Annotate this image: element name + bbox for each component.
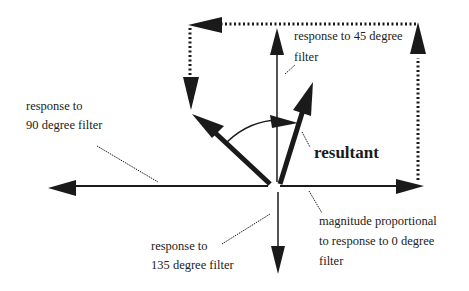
label-45-line1: response to 45 degree: [294, 27, 403, 45]
leader-135: [222, 214, 270, 244]
arrow-up-icon: [270, 28, 284, 55]
arc-arrow-icon: [270, 115, 298, 128]
label-45-line2: filter: [294, 48, 318, 66]
vector-90-line: [210, 128, 270, 184]
arrow-left-icon: [48, 180, 76, 196]
dotted-arrow-left-icon: [188, 17, 222, 33]
dotted-arrow-up-icon: [410, 22, 426, 54]
label-135-line1: response to: [151, 237, 208, 255]
arrow-down-icon: [271, 246, 285, 274]
label-90-line2: 90 degree filter: [26, 116, 102, 134]
resultant-arrow-icon: [293, 82, 313, 116]
label-0-line1: magnitude proportional: [319, 212, 437, 230]
label-0-line2: to response to 0 degree: [319, 232, 434, 250]
dotted-arrow-down-icon: [183, 77, 199, 110]
label-resultant: resultant: [314, 143, 379, 163]
label-135-line2: 135 degree filter: [151, 256, 234, 274]
leader-resultant: [302, 132, 310, 147]
leader-90: [97, 146, 158, 182]
label-90-line1: response to: [26, 97, 83, 115]
leader-45: [285, 65, 295, 74]
arrow-right-icon: [396, 179, 424, 194]
leader-0: [309, 191, 322, 213]
label-0-line3: filter: [319, 252, 343, 270]
